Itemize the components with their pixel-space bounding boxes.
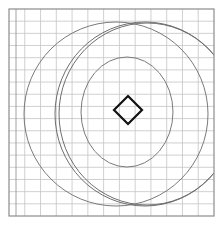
inner-ellipse — [81, 57, 173, 167]
diagram-canvas — [0, 0, 224, 227]
crescent-arc-b — [59, 23, 224, 205]
grid-frame — [9, 9, 214, 216]
grid — [9, 9, 214, 216]
geometric-figure — [0, 0, 224, 227]
center-diamond — [114, 96, 142, 124]
shapes — [24, 22, 224, 206]
outer-ellipse — [24, 22, 208, 206]
